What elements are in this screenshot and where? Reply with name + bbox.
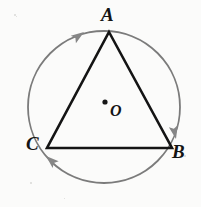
arrow-toward-a-icon xyxy=(71,28,87,43)
center-point-dot xyxy=(102,99,107,104)
vertex-label-b: B xyxy=(172,142,185,161)
arrow-toward-b-icon xyxy=(169,125,181,140)
center-label-o: O xyxy=(110,103,122,119)
figure-canvas xyxy=(0,0,201,207)
vertex-label-c: C xyxy=(26,134,39,153)
vertex-label-a: A xyxy=(101,5,114,24)
geometry-figure: A B C O xyxy=(0,0,201,207)
